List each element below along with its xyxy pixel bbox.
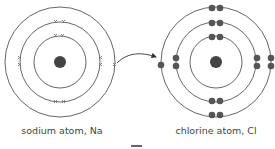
transfer-arrow: [117, 54, 156, 63]
bottom-mark: [131, 145, 142, 147]
chlorine-label: chlorine atom, Cl: [175, 125, 256, 136]
sodium-nucleus: [54, 56, 66, 68]
sodium-label: sodium atom, Na: [21, 125, 102, 136]
chlorine-nucleus: [210, 56, 222, 68]
